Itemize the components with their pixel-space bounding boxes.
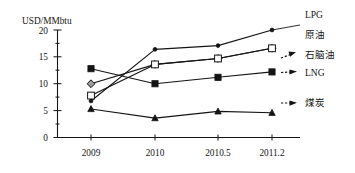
series-line-4	[91, 109, 272, 118]
data-point-3-2	[215, 74, 221, 80]
series-line-3	[91, 69, 272, 84]
data-point-1-0	[87, 80, 95, 88]
x-tick-label-2011-2: 2011.2	[259, 148, 285, 158]
x-tick-label-2009: 2009	[82, 148, 101, 158]
data-point-3-0	[88, 66, 94, 72]
series-line-0	[91, 30, 272, 101]
data-point-4-0	[88, 106, 94, 112]
data-point-0-0	[89, 99, 93, 103]
legend-label-crude-oil: 原油	[305, 29, 325, 40]
legend-label-lpg: LPG	[305, 10, 323, 20]
y-tick-label-5: 5	[43, 106, 48, 116]
data-point-3-3	[269, 69, 275, 75]
data-point-2-3	[269, 45, 276, 52]
legend-label-naphtha: 石脑油	[305, 49, 335, 60]
legend-leader-lines	[272, 25, 300, 106]
series-line-2	[91, 48, 272, 95]
y-tick-label-10: 10	[39, 79, 49, 89]
y-axis-title: USD/MMbtu	[22, 16, 72, 26]
legend-label-coal: 煤炭	[305, 97, 325, 108]
data-point-2-0	[88, 92, 95, 99]
y-tick-label-15: 15	[39, 52, 49, 62]
x-tick-label-2010: 2010	[146, 148, 165, 158]
legend-label-lng: LNG	[305, 68, 325, 78]
data-point-3-1	[152, 81, 158, 87]
line-chart: USD/MMbtu 20 15 10 5 0	[0, 0, 355, 173]
data-point-0-1	[153, 47, 157, 51]
y-tick-label-0: 0	[43, 133, 48, 143]
data-point-0-2	[216, 44, 220, 48]
series-layer	[87, 28, 276, 121]
data-point-2-2	[215, 55, 222, 62]
x-tick-label-2010-5: 2010.5	[205, 148, 231, 158]
chart-container: USD/MMbtu 20 15 10 5 0	[0, 0, 355, 173]
y-tick-label-20: 20	[39, 26, 49, 36]
data-point-2-1	[152, 61, 159, 68]
